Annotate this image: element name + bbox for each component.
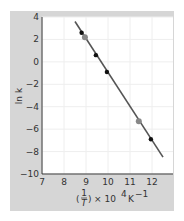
data-point	[149, 137, 153, 141]
svg-text:4: 4	[121, 189, 127, 199]
y-tick-label: −4	[26, 102, 40, 112]
y-tick-label: 0	[33, 57, 39, 67]
svg-text:× 10: × 10	[94, 194, 116, 204]
svg-text:): )	[88, 194, 92, 204]
chart: 420−2−4−6−8−10 789101112 ln k ( 1 T ) × …	[0, 0, 184, 221]
data-point	[79, 31, 83, 35]
y-tick-label: 4	[33, 12, 39, 22]
highlighted-data-point	[136, 118, 142, 124]
y-tick-label: −8	[26, 147, 40, 157]
x-tick-label: 12	[146, 177, 157, 187]
x-tick-label: 10	[102, 177, 114, 187]
svg-text:1: 1	[81, 188, 87, 198]
x-tick-label: 7	[39, 177, 45, 187]
y-tick-label: −6	[26, 124, 40, 134]
x-tick-label: 8	[61, 177, 67, 187]
x-tick-label: 11	[124, 177, 135, 187]
x-tick-label: 9	[83, 177, 89, 187]
data-point	[94, 53, 98, 57]
y-axis-label: ln k	[14, 87, 24, 104]
data-point	[105, 70, 109, 74]
y-tick-label: 2	[33, 34, 39, 44]
highlighted-data-point	[82, 34, 88, 40]
y-tick-label: −2	[26, 79, 39, 89]
x-tick-labels: 789101112	[39, 177, 158, 187]
y-tick-label: −10	[20, 169, 39, 179]
x-axis-label: ( 1 T ) × 10 4 K −1	[76, 188, 148, 208]
svg-text:K: K	[128, 194, 135, 204]
svg-text:−1: −1	[135, 189, 148, 199]
svg-text:(: (	[76, 194, 80, 204]
